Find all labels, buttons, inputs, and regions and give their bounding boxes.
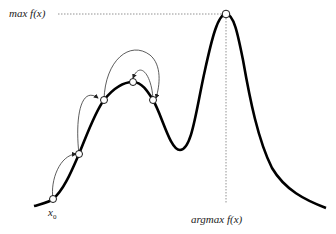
hill-climbing-diagram: max f(x) argmax f(x) x0 xyxy=(0,0,336,234)
point-p3 xyxy=(130,79,137,86)
max-label: max f(x) xyxy=(9,7,45,19)
start-label: x0 xyxy=(48,206,56,221)
point-p2 xyxy=(101,97,108,104)
point-max xyxy=(222,10,230,18)
point-x0 xyxy=(50,196,57,203)
objective-curve xyxy=(34,14,326,208)
point-p4 xyxy=(150,97,157,104)
start-label-sub: 0 xyxy=(53,213,57,221)
point-p1 xyxy=(76,151,83,158)
step-arrow-1 xyxy=(52,154,76,199)
argmax-label: argmax f(x) xyxy=(191,213,242,225)
diagram-svg xyxy=(0,0,336,234)
step-arrow-2 xyxy=(78,95,98,154)
